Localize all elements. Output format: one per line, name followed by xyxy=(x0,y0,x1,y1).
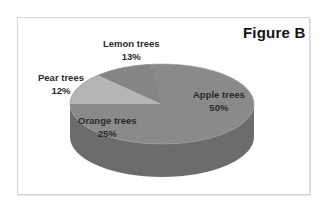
label-orange-pct: 25% xyxy=(78,127,137,140)
label-orange: Orange trees 25% xyxy=(78,114,137,140)
label-lemon-pct: 13% xyxy=(103,50,160,63)
label-orange-name: Orange trees xyxy=(78,114,137,127)
label-pear-name: Pear trees xyxy=(38,71,84,84)
label-apple-pct: 50% xyxy=(193,101,245,114)
label-pear: Pear trees 12% xyxy=(38,71,84,97)
label-pear-pct: 12% xyxy=(38,84,84,97)
label-lemon-name: Lemon trees xyxy=(103,37,160,50)
label-apple: Apple trees 50% xyxy=(193,88,245,114)
label-lemon: Lemon trees 13% xyxy=(103,37,160,63)
chart-title: Figure B xyxy=(243,24,305,41)
label-apple-name: Apple trees xyxy=(193,88,245,101)
